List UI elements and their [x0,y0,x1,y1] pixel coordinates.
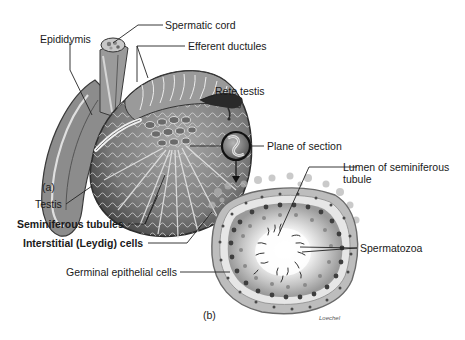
label-plane-of-section: Plane of section [267,140,342,152]
testis-drawing [42,38,252,238]
label-rete-testis: Rete testis [215,85,265,97]
label-epididymis: Epididymis [40,33,91,45]
panel-label-b: (b) [203,309,216,321]
label-interstitial-cells: Interstitial (Leydig) cells [23,237,143,249]
label-germinal-epithelial-cells: Germinal epithelial cells [66,266,177,278]
artist-credit: Loechel [319,315,340,321]
label-efferent-ductules: Efferent ductules [188,40,267,52]
label-lumen-line1: Lumen of seminiferous [343,161,449,173]
label-testis: Testis [35,198,62,210]
label-lumen-line2: tubule [343,173,372,185]
panel-label-a: (a) [42,181,55,193]
label-spermatozoa: Spermatozoa [360,242,422,254]
label-seminiferous-tubules: Seminiferous tubules [17,218,124,230]
label-spermatic-cord: Spermatic cord [165,19,236,31]
